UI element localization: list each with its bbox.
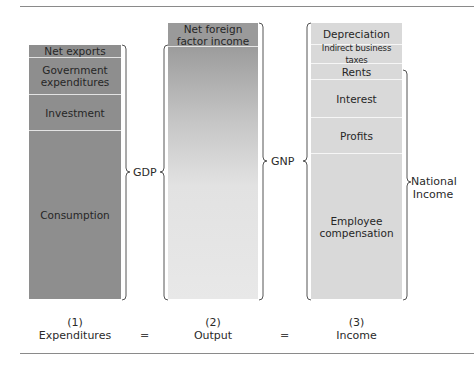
segment-label: Rents	[342, 66, 372, 78]
segment-label: Net exports	[44, 45, 105, 57]
segment-interest: Interest	[311, 80, 402, 118]
income-caption: (3) Income	[311, 316, 402, 342]
segment-label: Employee compensation	[319, 215, 394, 239]
top-rule	[20, 6, 474, 7]
segment-label: Net foreign factor income	[174, 23, 252, 47]
segment-profits: Profits	[311, 118, 402, 154]
column-number: (1)	[29, 316, 121, 329]
output-column: Net foreign factor income	[168, 23, 258, 299]
segment-output-body	[168, 47, 258, 299]
gdp-label: GDP	[133, 166, 157, 179]
segment-government-expenditures: Government expenditures	[29, 58, 121, 95]
segment-employee-compensation: Employee compensation	[311, 154, 402, 299]
column-number: (3)	[311, 316, 402, 329]
output-caption: (2) Output	[168, 316, 258, 342]
segment-label: Depreciation	[323, 28, 390, 40]
column-name: Income	[311, 329, 402, 342]
segment-consumption: Consumption	[29, 131, 121, 299]
income-column: Depreciation Indirect business taxes Ren…	[311, 23, 402, 299]
equals-sign: =	[280, 329, 289, 342]
segment-investment: Investment	[29, 95, 121, 131]
gdp-right-brace-icon	[121, 44, 131, 301]
bottom-rule	[20, 353, 474, 354]
national-income-line1: National	[411, 175, 455, 188]
expenditures-caption: (1) Expenditures	[29, 316, 121, 342]
segment-indirect-business-taxes: Indirect business taxes	[311, 45, 402, 64]
segment-net-exports: Net exports	[29, 45, 121, 58]
segment-rents: Rents	[311, 64, 402, 80]
equals-sign: =	[140, 329, 149, 342]
segment-label: Indirect business taxes	[311, 42, 402, 66]
column-number: (2)	[168, 316, 258, 329]
segment-net-foreign-factor-income: Net foreign factor income	[168, 23, 258, 47]
gnp-right-brace-icon	[258, 22, 268, 301]
column-name: Output	[168, 329, 258, 342]
segment-label: Government expenditures	[39, 64, 111, 88]
gnp-label: GNP	[271, 155, 294, 168]
segment-label: Investment	[45, 107, 104, 119]
segment-label: Interest	[336, 93, 376, 105]
expenditures-column: Net exports Government expenditures Inve…	[29, 45, 121, 299]
segment-label: Consumption	[40, 209, 110, 221]
column-name: Expenditures	[29, 329, 121, 342]
segment-label: Profits	[340, 130, 373, 142]
national-income-label: National Income	[411, 175, 455, 201]
national-income-line2: Income	[411, 188, 455, 201]
